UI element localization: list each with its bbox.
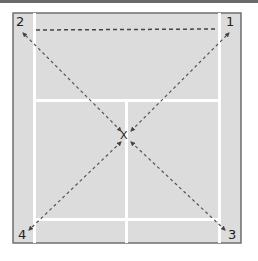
center-line: [125, 102, 128, 243]
corner-label-3: 3: [228, 228, 236, 241]
corner-label-2: 2: [16, 15, 24, 28]
corner-label-4: 4: [18, 228, 26, 241]
right-sideline: [218, 13, 221, 243]
short-service-line: [36, 99, 218, 102]
center-marker: X: [120, 130, 128, 141]
left-sideline: [33, 13, 36, 243]
court-diagram: [0, 0, 258, 261]
corner-label-1: 1: [226, 15, 234, 28]
